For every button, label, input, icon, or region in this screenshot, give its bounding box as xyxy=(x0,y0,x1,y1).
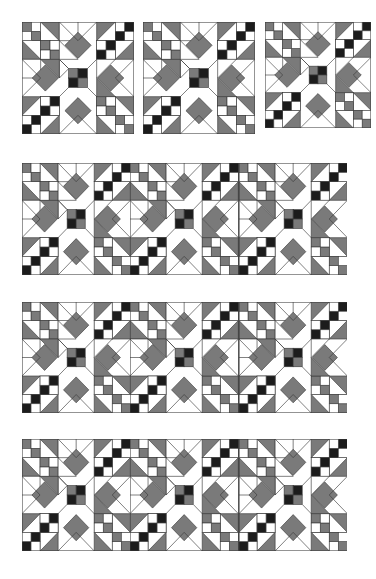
quilt-block xyxy=(130,163,238,275)
quilt-banner xyxy=(22,163,347,275)
quilt-block xyxy=(130,302,238,413)
quilt-banner xyxy=(22,302,347,413)
quilt-banner xyxy=(22,439,347,551)
quilt-block xyxy=(239,439,347,551)
quilt-block xyxy=(22,163,130,275)
quilt-block xyxy=(22,439,130,551)
quilt-block xyxy=(239,302,347,413)
quilt-block xyxy=(22,302,130,413)
quilt-block-single xyxy=(265,22,371,128)
quilt-block-single xyxy=(22,22,134,134)
quilt-block-single xyxy=(143,22,255,134)
quilt-block xyxy=(130,439,238,551)
quilt-block xyxy=(239,163,347,275)
